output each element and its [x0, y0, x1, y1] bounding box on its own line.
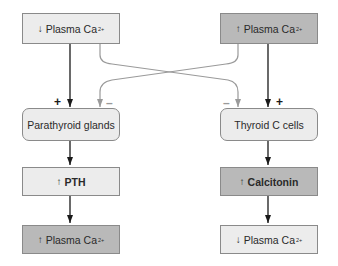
- node-increased-pth: ↑ PTH: [22, 167, 120, 196]
- node-thyroid-c-cells: Thyroid C cells: [220, 108, 318, 141]
- superscript: 2+: [98, 237, 104, 243]
- node-label: Parathyroid glands: [27, 119, 115, 131]
- node-decreased-plasma-calcium-result: ↓ Plasma Ca2+: [220, 225, 318, 254]
- node-low-plasma-calcium: ↓ Plasma Ca2+: [22, 13, 120, 44]
- inhibit-arrow-low-ca-to-thyroid: [100, 44, 238, 107]
- node-label: Plasma Ca: [46, 234, 97, 246]
- stimulate-sign-parathyroid: +: [54, 96, 61, 108]
- node-label: Plasma Ca: [244, 234, 295, 246]
- down-arrow-icon: ↓: [236, 234, 241, 245]
- up-arrow-icon: ↑: [236, 23, 241, 34]
- node-increased-calcitonin: ↑ Calcitonin: [220, 167, 318, 196]
- stimulate-sign-thyroid: +: [276, 96, 283, 108]
- node-label: Thyroid C cells: [234, 119, 303, 131]
- down-arrow-icon: ↓: [38, 23, 43, 34]
- up-arrow-icon: ↑: [240, 176, 245, 187]
- node-label: PTH: [65, 176, 86, 188]
- up-arrow-icon: ↑: [38, 234, 43, 245]
- node-increased-plasma-calcium-result: ↑ Plasma Ca2+: [22, 225, 120, 254]
- superscript: 2+: [296, 26, 302, 32]
- inhibit-arrow-high-ca-to-parathyroid: [100, 44, 238, 107]
- node-label: Plasma Ca: [244, 23, 295, 35]
- superscript: 2+: [98, 26, 104, 32]
- node-parathyroid-glands: Parathyroid glands: [22, 108, 120, 141]
- up-arrow-icon: ↑: [57, 176, 62, 187]
- node-high-plasma-calcium: ↑ Plasma Ca2+: [220, 13, 318, 44]
- node-label: Plasma Ca: [46, 23, 97, 35]
- superscript: 2+: [296, 237, 302, 243]
- node-label: Calcitonin: [248, 176, 299, 188]
